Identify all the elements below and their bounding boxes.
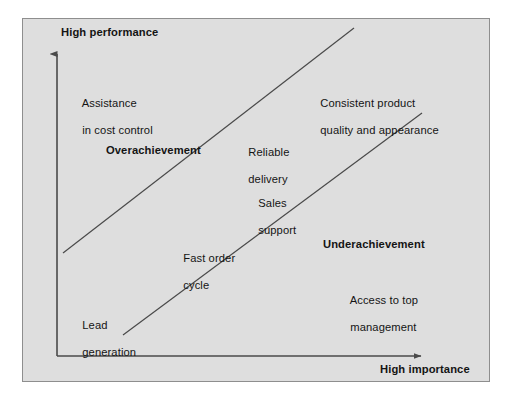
attribute-assistance-in-cost-control: Assistance in cost control — [63, 83, 153, 151]
attribute-line-2: in cost control — [82, 124, 153, 136]
zone-underachievement: Underachievement — [323, 238, 425, 252]
y-axis-title: High performance — [61, 26, 158, 40]
attribute-line-1: Sales — [258, 197, 287, 209]
x-axis-title: High importance — [380, 363, 470, 377]
zone-overachievement: Overachievement — [106, 144, 201, 158]
attribute-sales-support: Sales support — [239, 183, 296, 251]
attribute-line-2: cycle — [183, 279, 209, 291]
chart-panel: High performance High importance Assista… — [22, 18, 490, 382]
attribute-line-2: management — [350, 321, 416, 333]
attribute-line-1: Reliable — [248, 146, 289, 158]
attribute-lead-generation: Lead generation — [63, 305, 136, 373]
attribute-line-2: support — [258, 224, 296, 236]
attribute-line-1: Fast order — [183, 252, 235, 264]
attribute-line-2: quality and appearance — [320, 124, 439, 136]
figure-root: High performance High importance Assista… — [0, 0, 510, 402]
attribute-line-2: generation — [82, 346, 136, 358]
attribute-line-1: Assistance — [82, 97, 137, 109]
attribute-access-to-top-management: Access to top management — [331, 280, 418, 348]
attribute-line-1: Access to top — [350, 294, 418, 306]
attribute-line-1: Lead — [82, 319, 107, 331]
attribute-consistent-product-quality: Consistent product quality and appearanc… — [301, 83, 439, 151]
attribute-fast-order-cycle: Fast order cycle — [164, 238, 235, 306]
attribute-line-1: Consistent product — [320, 97, 415, 109]
